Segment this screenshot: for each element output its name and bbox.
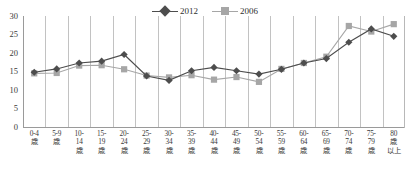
square-marker-icon <box>256 79 262 85</box>
series-line <box>34 24 394 82</box>
legend-label-2006: 2006 <box>240 6 258 16</box>
x-tick-label: 35-39歳 <box>180 130 202 155</box>
legend-key-2006 <box>212 6 238 16</box>
legend-label-2012: 2012 <box>180 6 198 16</box>
diamond-marker-icon <box>345 39 352 46</box>
x-tick-label: 80歳以上 <box>383 130 405 155</box>
square-marker-icon <box>391 21 397 27</box>
square-marker-icon <box>221 7 229 15</box>
square-marker-icon <box>233 74 239 80</box>
legend-item-2012[interactable]: 2012 <box>152 6 198 16</box>
x-tick-label: 60-64歳 <box>293 130 315 155</box>
x-tick-label: 0-4歳 <box>23 130 45 147</box>
x-tick-label: 70-74歳 <box>338 130 360 155</box>
x-tick-label: 15-19歳 <box>90 130 112 155</box>
x-tick-label: 5-9歳 <box>45 130 67 147</box>
legend-item-2006[interactable]: 2006 <box>212 6 258 16</box>
x-tick-label: 65-69歳 <box>315 130 337 155</box>
x-tick-label: 75-79歳 <box>360 130 382 155</box>
x-tick-label: 20-24歳 <box>113 130 135 155</box>
diamond-marker-icon <box>159 5 170 16</box>
square-marker-icon <box>121 66 127 72</box>
x-tick-label: 40-44歳 <box>203 130 225 155</box>
x-tick-label: 25-29歳 <box>135 130 157 155</box>
series-line <box>34 29 394 80</box>
diamond-marker-icon <box>210 64 217 71</box>
x-tick-label: 50-54歳 <box>248 130 270 155</box>
square-marker-icon <box>346 23 352 29</box>
line-chart: 302520151050 0-4歳5-9歳10-14歳15-19歳20-24歳2… <box>0 0 410 177</box>
diamond-marker-icon <box>233 67 240 74</box>
series-2006 <box>31 21 397 85</box>
diamond-marker-icon <box>255 70 262 77</box>
square-marker-icon <box>211 77 217 83</box>
chart-legend: 2012 2006 <box>152 6 258 16</box>
x-tick-label: 45-49歳 <box>225 130 247 155</box>
x-tick-label: 10-14歳 <box>68 130 90 155</box>
legend-key-2012 <box>152 6 178 16</box>
x-tick-label: 55-59歳 <box>270 130 292 155</box>
x-tick-label: 30-34歳 <box>158 130 180 155</box>
diamond-marker-icon <box>390 33 397 40</box>
